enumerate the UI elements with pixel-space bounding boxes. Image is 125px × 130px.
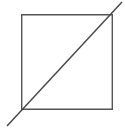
figure-canvas: Square with overshooting diagonal A hand… <box>0 0 125 130</box>
figure-svg <box>0 0 125 130</box>
